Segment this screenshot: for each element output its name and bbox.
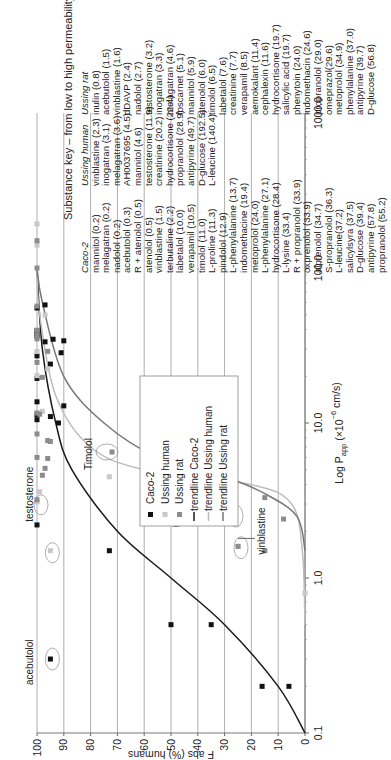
legend-label-ussing_rat: Ussing rat: [174, 459, 185, 504]
testosterone-label: testosterone: [24, 466, 35, 521]
substance-key-column: Caco-2mannitol (0.2)melagatran (0.2)nado…: [80, 178, 387, 273]
point-ussing-rat: [35, 360, 40, 365]
point-ussing-human: [48, 548, 53, 553]
legend-label-trend_human: trendline Ussing human: [203, 406, 214, 511]
legend-label-ussing_human: Ussing human: [160, 440, 171, 504]
legend-marker-ussing_rat: [177, 512, 182, 517]
point-ussing-rat: [40, 473, 45, 478]
substance-key-item: verapamil (8.5): [239, 24, 250, 115]
substance-key-item: propranolol (55.2): [377, 178, 388, 273]
substance-key-item: indomethacine (19.4): [239, 178, 250, 273]
substance-key-item: D-glucose (56.8): [366, 24, 377, 115]
point-ussing-rat: [35, 266, 40, 271]
vinblastine-label: vinblastine: [256, 507, 267, 555]
y-tick-label: 20: [245, 739, 257, 751]
acebutolol-label: acebutolol: [24, 639, 35, 685]
y-tick-label: 30: [218, 739, 230, 751]
point-caco-2: [260, 684, 265, 689]
point-caco-2: [51, 337, 56, 342]
ellipse-testosterone: [34, 495, 48, 515]
point-ussing-rat: [35, 304, 40, 309]
figure-stage: 10090807060504030201000.11.010.0100.0100…: [0, 0, 391, 760]
y-tick-label: 80: [84, 739, 96, 751]
point-caco-2: [48, 657, 53, 662]
y-tick-label: 0: [299, 739, 311, 745]
substance-key-item: R + atenolol (0.5): [133, 178, 144, 273]
y-tick-label: 10: [272, 739, 284, 751]
legend-label-caco2: Caco-2: [145, 471, 156, 504]
point-ussing-rat: [45, 349, 50, 354]
point-ussing-rat: [262, 495, 267, 500]
point-ussing-rat: [110, 449, 115, 454]
point-ussing-human: [37, 489, 42, 494]
point-ussing-rat: [35, 455, 40, 460]
timolol-label: Timolol: [83, 438, 94, 470]
point-ussing-rat: [236, 544, 241, 549]
point-ussing-human: [303, 591, 308, 596]
point-caco-2: [61, 403, 66, 408]
x-tick-label: 1.0: [312, 571, 324, 586]
point-ussing-human: [35, 221, 40, 226]
point-ussing-rat: [45, 456, 50, 461]
y-axis-title: F abs (%) humans: [128, 749, 214, 760]
legend-marker-caco2: [148, 512, 153, 517]
point-ussing-rat: [35, 411, 40, 416]
substance-key-item: verapamil (10.5): [186, 178, 197, 273]
point-ussing-rat: [45, 438, 50, 443]
point-caco-2: [48, 362, 53, 367]
point-ussing-human: [43, 313, 48, 318]
legend-marker-ussing_human: [163, 512, 168, 517]
x-tick-label: 0.1: [312, 726, 324, 741]
point-ussing-human: [45, 366, 50, 371]
point-ussing-rat: [43, 466, 48, 471]
point-ussing-rat: [40, 375, 45, 380]
point-ussing-human: [35, 349, 40, 354]
point-ussing-human: [35, 243, 40, 248]
point-caco-2: [35, 417, 40, 422]
y-tick-label: 70: [111, 739, 123, 751]
point-ussing-rat: [35, 238, 40, 243]
point-caco-2: [43, 339, 48, 344]
y-tick-label: 50: [165, 739, 177, 751]
x-tick-label: 10.0: [312, 413, 324, 434]
x-axis-title: Log Papp (×10−6 cm/s): [329, 382, 348, 483]
substance-key-item: nadolol (2.7): [133, 24, 144, 115]
substance-key-title: Substance key – from low to high permeab…: [62, 0, 74, 220]
y-tick-label: 60: [138, 739, 150, 751]
point-caco-2: [35, 399, 40, 404]
y-tick-label: 90: [57, 739, 69, 751]
legend: Caco-2Ussing humanUssing rattrendline Ca…: [140, 376, 238, 526]
point-caco-2: [107, 548, 112, 553]
point-ussing-rat: [35, 332, 40, 337]
point-caco-2: [35, 522, 40, 527]
point-ussing-human: [107, 474, 112, 479]
point-caco-2: [43, 302, 48, 307]
y-tick-label: 40: [191, 739, 203, 751]
point-caco-2: [286, 684, 291, 689]
substance-key-item: mannitol (5.9): [186, 24, 197, 115]
point-ussing-human: [35, 373, 40, 378]
point-ussing-rat: [35, 328, 40, 333]
substance-key-column: Ussing ratinulin (0.8)acebutolol (1.5)vi…: [80, 24, 377, 115]
substance-key-column-heading: Caco-2: [80, 178, 91, 273]
point-caco-2: [169, 622, 174, 627]
legend-label-trend_rat: trendline Ussing rat: [218, 425, 229, 511]
y-tick-label: 100: [31, 739, 43, 757]
point-ussing-rat: [35, 431, 40, 436]
point-caco-2: [48, 414, 53, 419]
point-caco-2: [35, 353, 40, 358]
point-caco-2: [56, 421, 61, 426]
point-caco-2: [61, 338, 66, 343]
point-ussing-rat: [281, 517, 286, 522]
substance-key-column-heading: Ussing rat: [80, 24, 91, 115]
legend-label-trend_caco2: trendline Caco-2: [189, 437, 200, 511]
point-caco-2: [209, 622, 214, 627]
point-caco-2: [59, 350, 64, 355]
